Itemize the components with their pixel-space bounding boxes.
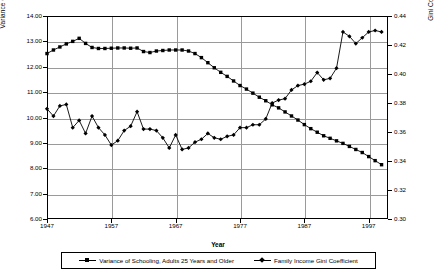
data-point-marker xyxy=(341,142,344,145)
square-marker-icon xyxy=(79,257,96,264)
y-axis-right-tick-mark xyxy=(388,190,392,191)
y-axis-right-tick-label: 0.42 xyxy=(394,41,434,48)
y-axis-right-title: Gini Coefficient xyxy=(427,0,434,58)
y-axis-left-tick-label: 13.00 xyxy=(2,37,42,44)
data-point-marker xyxy=(135,46,138,49)
data-point-marker xyxy=(283,110,286,113)
data-point-marker xyxy=(155,49,158,52)
y-axis-left-title: Variance of Schooling xyxy=(0,0,6,56)
data-point-marker xyxy=(84,42,87,45)
x-axis-tick-label: 1987 xyxy=(284,222,324,229)
data-point-marker xyxy=(258,96,261,99)
data-point-marker xyxy=(52,48,55,51)
y-axis-left-tick-label: 10.00 xyxy=(2,114,42,121)
data-point-marker xyxy=(244,126,248,130)
data-point-marker xyxy=(97,47,100,50)
data-point-marker xyxy=(135,110,139,114)
data-point-marker xyxy=(251,91,254,94)
data-point-marker xyxy=(58,45,61,48)
data-point-marker xyxy=(148,51,151,54)
data-point-marker xyxy=(174,133,178,137)
data-point-marker xyxy=(296,118,299,121)
data-point-marker xyxy=(71,40,74,43)
data-point-marker xyxy=(65,42,68,45)
data-point-marker xyxy=(373,159,376,162)
x-axis-title: Year xyxy=(0,241,436,248)
data-point-marker xyxy=(348,145,351,148)
data-point-marker xyxy=(180,48,183,51)
data-point-marker xyxy=(277,106,280,109)
x-axis-tick-mark xyxy=(369,219,370,223)
y-axis-left-tick-label: 8.00 xyxy=(2,164,42,171)
x-axis-tick-label: 1947 xyxy=(27,222,67,229)
y-axis-right-tick-mark xyxy=(388,219,392,220)
data-point-marker xyxy=(367,155,370,158)
data-point-marker xyxy=(77,37,80,40)
y-axis-left-tick-label: 12.00 xyxy=(2,63,42,70)
data-point-marker xyxy=(219,71,222,74)
y-axis-right-tick-label: 0.44 xyxy=(394,12,434,19)
x-axis-tick-label: 1957 xyxy=(91,222,131,229)
data-point-marker xyxy=(290,114,293,117)
x-axis-tick-label: 1997 xyxy=(349,222,389,229)
x-axis-tick-mark xyxy=(240,219,241,223)
x-axis-tick-mark xyxy=(304,219,305,223)
data-point-marker xyxy=(334,66,338,70)
y-axis-right-tick-mark xyxy=(388,45,392,46)
data-point-marker xyxy=(200,56,203,59)
data-point-marker xyxy=(193,52,196,55)
data-series-layer xyxy=(47,16,388,219)
y-axis-right-tick-label: 0.30 xyxy=(394,215,434,222)
data-point-marker xyxy=(174,48,177,51)
data-point-marker xyxy=(123,46,126,49)
data-point-marker xyxy=(110,47,113,50)
data-point-marker xyxy=(116,46,119,49)
data-point-marker xyxy=(167,146,171,150)
x-axis-tick-label: 1977 xyxy=(220,222,260,229)
diamond-marker-icon xyxy=(254,257,271,264)
data-point-marker xyxy=(379,30,383,34)
data-point-marker xyxy=(225,75,228,78)
y-axis-left-tick-label: 7.00 xyxy=(2,190,42,197)
y-axis-left-tick-label: 11.00 xyxy=(2,88,42,95)
data-point-marker xyxy=(219,137,223,141)
x-axis-tick-mark xyxy=(176,219,177,223)
y-axis-right-tick-mark xyxy=(388,103,392,104)
y-axis-right-tick-label: 0.36 xyxy=(394,128,434,135)
x-axis-tick-mark xyxy=(47,219,48,223)
data-point-marker xyxy=(303,123,306,126)
data-point-marker xyxy=(264,99,267,102)
data-point-marker xyxy=(335,139,338,142)
x-axis-tick-mark xyxy=(111,219,112,223)
data-point-marker xyxy=(245,87,248,90)
data-point-marker xyxy=(302,82,306,86)
data-point-marker xyxy=(129,47,132,50)
x-axis-tick-label: 1967 xyxy=(156,222,196,229)
y-axis-right-tick-label: 0.32 xyxy=(394,186,434,193)
data-point-marker xyxy=(148,127,152,131)
y-axis-right-tick-label: 0.38 xyxy=(394,99,434,106)
data-point-marker xyxy=(316,131,319,134)
data-point-marker xyxy=(45,52,48,55)
data-point-marker xyxy=(168,48,171,51)
data-point-marker xyxy=(58,104,62,108)
legend-label-variance: Variance of Schooling, Adults 25 Years a… xyxy=(99,257,234,264)
legend-item-variance: Variance of Schooling, Adults 25 Years a… xyxy=(79,257,234,264)
data-point-marker xyxy=(322,134,325,137)
data-point-marker xyxy=(206,61,209,64)
data-point-marker xyxy=(161,49,164,52)
y-axis-right-tick-label: 0.34 xyxy=(394,157,434,164)
y-axis-left-tick-label: 6.00 xyxy=(2,215,42,222)
data-point-marker xyxy=(90,114,94,118)
y-axis-right-tick-label: 0.40 xyxy=(394,70,434,77)
y-axis-right-tick-mark xyxy=(388,161,392,162)
legend-label-gini: Family Income Gini Coefficient xyxy=(274,257,358,264)
series-line-variance xyxy=(47,38,382,164)
data-point-marker xyxy=(251,123,255,127)
legend-item-gini: Family Income Gini Coefficient xyxy=(254,257,358,264)
data-point-marker xyxy=(373,28,377,32)
data-point-marker xyxy=(232,79,235,82)
data-point-marker xyxy=(328,137,331,140)
data-point-marker xyxy=(180,147,184,151)
data-point-marker xyxy=(309,127,312,130)
